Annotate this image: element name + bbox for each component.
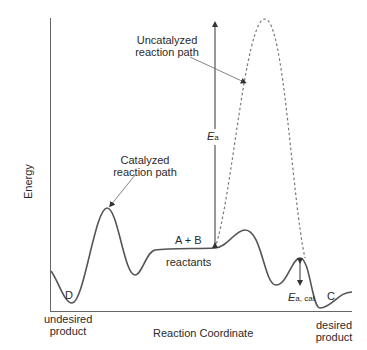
desired-product-label: desired product xyxy=(310,319,358,343)
ea-cat-label: Ea, cat xyxy=(288,291,315,305)
uncatalyzed-label: Uncatalyzed reaction path xyxy=(132,34,202,58)
catalyzed-label-line2: reaction path xyxy=(110,166,180,178)
catalyzed-label-line1: Catalyzed xyxy=(110,154,180,166)
desired-line2: product xyxy=(310,331,358,343)
catalyzed-label: Catalyzed reaction path xyxy=(110,154,180,178)
point-c-label: C xyxy=(327,290,335,302)
catalyzed-pointer-arrow xyxy=(111,175,135,205)
reactant-species-label: A + B xyxy=(175,234,202,246)
uncatalyzed-label-line2: reaction path xyxy=(132,46,202,58)
y-axis-label: Energy xyxy=(22,164,34,199)
undesired-product-label: undesired product xyxy=(44,313,92,337)
undesired-line2: product xyxy=(44,325,92,337)
uncatalyzed-pointer-arrow xyxy=(190,57,244,82)
x-axis-label: Reaction Coordinate xyxy=(153,327,253,339)
ea-cat-label-sub: a, cat xyxy=(295,294,315,303)
desired-line1: desired xyxy=(310,319,358,331)
uncatalyzed-reaction-curve xyxy=(215,19,305,258)
undesired-line1: undesired xyxy=(44,313,92,325)
reactants-label: reactants xyxy=(166,256,211,268)
uncatalyzed-label-line1: Uncatalyzed xyxy=(132,34,202,46)
point-d-label: D xyxy=(65,289,73,301)
ea-label: Ea xyxy=(207,129,219,145)
ea-label-sub: a xyxy=(214,133,218,142)
